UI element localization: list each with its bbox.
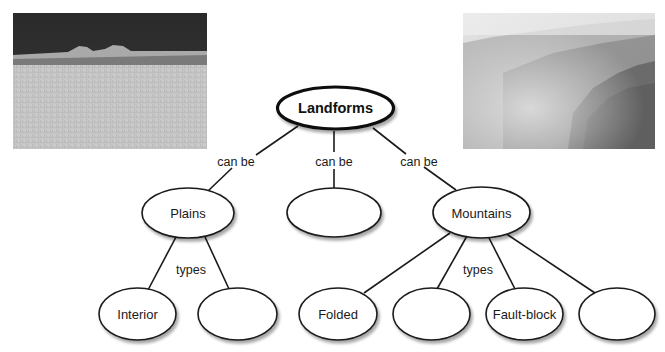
connector-mountains-empty-2 [505, 233, 595, 293]
node-empty-mountain-type-2 [579, 288, 655, 340]
node-interior: Interior [99, 288, 176, 340]
node-empty-plains-type [198, 288, 277, 340]
node-label-landforms: Landforms [298, 100, 373, 116]
connector-landforms-mountains-lower [424, 167, 456, 190]
connector-plains-empty [205, 237, 229, 289]
concept-map: can be can be can be types types Landfor… [0, 0, 665, 352]
link-label-can-be-center: can be [315, 155, 353, 169]
node-folded: Folded [299, 288, 377, 340]
node-label-plains: Plains [170, 206, 206, 221]
link-label-can-be-right: can be [400, 155, 438, 169]
node-label-interior: Interior [117, 307, 158, 322]
link-label-types-mountains: types [463, 263, 493, 277]
node-label-folded: Folded [318, 307, 358, 322]
connector-landforms-plains-upper [256, 126, 298, 155]
node-empty-level1 [287, 188, 381, 237]
node-label-fault-block: Fault-block [493, 307, 557, 322]
link-label-can-be-left: can be [217, 155, 255, 169]
link-label-types-plains: types [176, 263, 206, 277]
node-landforms: Landforms [278, 87, 394, 129]
connector-plains-interior [148, 237, 176, 290]
node-mountains: Mountains [433, 187, 530, 238]
node-plains: Plains [142, 188, 234, 238]
node-empty-mountain-type-1 [393, 288, 470, 340]
connector-mountains-folded [364, 233, 450, 293]
connector-landforms-mountains-upper [373, 128, 406, 154]
node-label-mountains: Mountains [452, 206, 512, 221]
node-fault-block: Fault-block [486, 288, 563, 340]
connector-landforms-plains-lower [208, 168, 232, 191]
